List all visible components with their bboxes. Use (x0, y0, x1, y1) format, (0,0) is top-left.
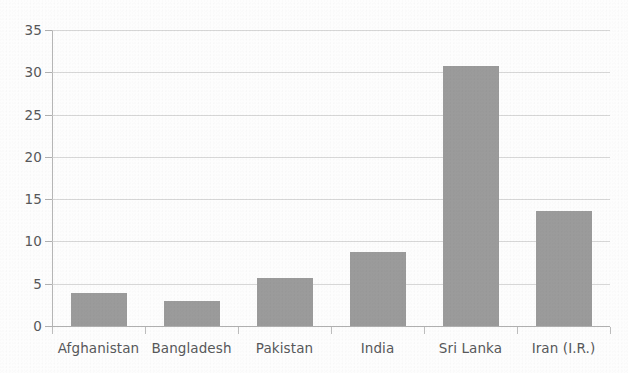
gridline-20 (52, 157, 610, 158)
y-axis-label: 15 (2, 191, 42, 207)
bar (164, 301, 220, 326)
bar (350, 252, 406, 326)
x-axis-label: Pakistan (256, 340, 313, 356)
x-axis-label: India (361, 340, 395, 356)
y-axis-label: 30 (2, 64, 42, 80)
y-tick-20 (45, 157, 52, 158)
x-tick-origin (52, 327, 53, 334)
gridline-10 (52, 241, 610, 242)
gridline-25 (52, 115, 610, 116)
y-tick-15 (45, 199, 52, 200)
x-axis-label: Sri Lanka (439, 340, 502, 356)
gridline-30 (52, 72, 610, 73)
y-axis-label: 20 (2, 149, 42, 165)
x-tick (517, 327, 518, 334)
bar (257, 278, 313, 326)
gridline-5 (52, 284, 610, 285)
bar (71, 293, 127, 326)
gridline-15 (52, 199, 610, 200)
y-axis-label: 5 (2, 276, 42, 292)
y-tick-0 (45, 326, 52, 327)
x-tick (331, 327, 332, 334)
x-tick (238, 327, 239, 334)
y-axis-label: 35 (2, 22, 42, 38)
plot-area (52, 30, 610, 326)
y-tick-5 (45, 284, 52, 285)
gridline-35 (52, 30, 610, 31)
x-tick (145, 327, 146, 334)
bar (443, 66, 499, 326)
x-tick (424, 327, 425, 334)
x-axis-label: Afghanistan (58, 340, 139, 356)
x-axis-label: Iran (I.R.) (532, 340, 596, 356)
y-axis-label: 10 (2, 233, 42, 249)
y-axis-label: 0 (2, 318, 42, 334)
y-tick-10 (45, 241, 52, 242)
x-axis-label: Bangladesh (151, 340, 231, 356)
bar (536, 211, 592, 326)
y-tick-35 (45, 30, 52, 31)
x-tick (610, 327, 611, 334)
bar-chart: 05101520253035 AfghanistanBangladeshPaki… (0, 0, 628, 373)
y-tick-25 (45, 115, 52, 116)
y-axis-label: 25 (2, 107, 42, 123)
y-tick-30 (45, 72, 52, 73)
